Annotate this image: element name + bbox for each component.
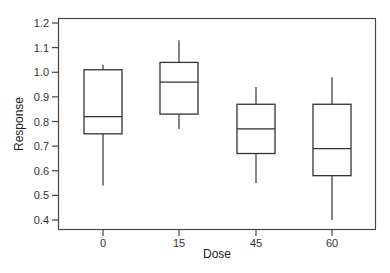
y-tick-label: 0.6 xyxy=(34,165,49,177)
y-tick-label: 0.7 xyxy=(34,140,49,152)
x-tick-label: 60 xyxy=(326,237,338,249)
y-tick-label: 0.8 xyxy=(34,116,49,128)
box-dose-60 xyxy=(313,77,351,220)
y-tick-label: 1.0 xyxy=(34,66,49,78)
boxes xyxy=(84,40,351,220)
y-tick-label: 1.2 xyxy=(34,17,49,29)
x-axis-label: Dose xyxy=(203,247,231,261)
y-axis: 0.40.50.60.70.80.91.01.11.2 xyxy=(34,17,59,226)
y-tick-label: 0.5 xyxy=(34,189,49,201)
y-tick-label: 1.1 xyxy=(34,42,49,54)
iqr-box xyxy=(160,62,198,114)
box-plot-chart: 0.40.50.60.70.80.91.01.11.2 0154560 Dose… xyxy=(0,0,390,273)
box-dose-45 xyxy=(237,87,275,183)
y-tick-label: 0.9 xyxy=(34,91,49,103)
x-tick-label: 15 xyxy=(173,237,185,249)
box-dose-0 xyxy=(84,65,122,186)
iqr-box xyxy=(84,70,122,134)
y-tick-label: 0.4 xyxy=(34,214,49,226)
y-axis-label: Response xyxy=(12,97,26,151)
box-dose-15 xyxy=(160,40,198,129)
iqr-box xyxy=(313,104,351,175)
x-tick-label: 45 xyxy=(250,237,262,249)
x-tick-label: 0 xyxy=(100,237,106,249)
